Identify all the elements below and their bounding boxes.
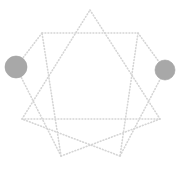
figure-canvas: Dotted star polygon graph xyxy=(0,0,181,170)
graph-node[interactable] xyxy=(155,60,175,80)
figure-background xyxy=(0,0,181,170)
graph-node[interactable] xyxy=(5,56,27,78)
star-polygon-graph xyxy=(0,0,181,170)
